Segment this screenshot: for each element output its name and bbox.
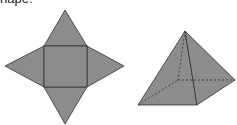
net-right-triangle	[87, 46, 124, 87]
pyramid-net	[5, 10, 124, 124]
net-bottom-triangle	[44, 87, 87, 124]
net-base-square	[44, 46, 87, 87]
net-left-triangle	[5, 46, 44, 87]
diagram-canvas	[0, 0, 237, 125]
net-top-triangle	[44, 10, 87, 46]
pyramid-solid	[138, 31, 235, 105]
